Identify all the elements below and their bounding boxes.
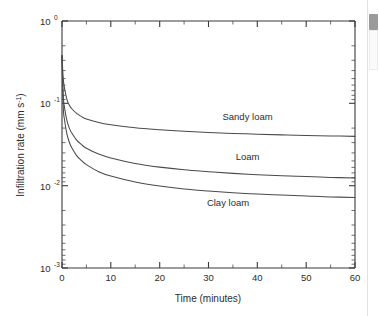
x-axis-title: Time (minutes): [175, 293, 241, 304]
scrollbar-track[interactable]: [367, 0, 379, 316]
svg-text:Infiltration rate (mm s-1): Infiltration rate (mm s-1): [15, 93, 26, 196]
x-tick-label-1: 10: [106, 272, 117, 283]
y-axis-title-tail: ): [15, 93, 26, 96]
y-tick-label-0: 10: [40, 16, 51, 27]
chart-background: [0, 0, 379, 316]
y-tick-exponent-3: -3: [54, 261, 60, 268]
series-label-loam: Loam: [236, 151, 260, 162]
y-tick-exponent-0: 0: [54, 14, 58, 21]
y-tick-label-3: 10: [40, 263, 51, 274]
x-tick-label-0: 0: [59, 272, 64, 283]
x-tick-label-4: 40: [252, 272, 263, 283]
x-tick-label-6: 60: [350, 272, 361, 283]
y-axis-title: Infiltration rate (mm s-1): [15, 93, 26, 196]
figure-root: 10 0 10 -1 10 -2 10 -3 0 10 20 30 40 50 …: [0, 0, 379, 316]
series-label-clay-loam: Clay loam: [207, 197, 249, 208]
x-tick-label-5: 50: [301, 272, 312, 283]
x-tick-label-2: 20: [154, 272, 165, 283]
y-tick-label-2: 10: [40, 181, 51, 192]
y-tick-exponent-1: -1: [54, 96, 60, 103]
y-tick-label-1: 10: [40, 98, 51, 109]
infiltration-rate-chart: 10 0 10 -1 10 -2 10 -3 0 10 20 30 40 50 …: [0, 0, 379, 316]
y-axis-title-main: Infiltration rate (mm s: [15, 103, 26, 197]
series-label-sandy-loam: Sandy loam: [222, 111, 272, 122]
y-tick-exponent-2: -2: [54, 179, 60, 186]
scrollbar-thumb[interactable]: [369, 14, 378, 30]
x-tick-label-3: 30: [203, 272, 214, 283]
scrollbar-secondary-panel[interactable]: [369, 30, 378, 70]
